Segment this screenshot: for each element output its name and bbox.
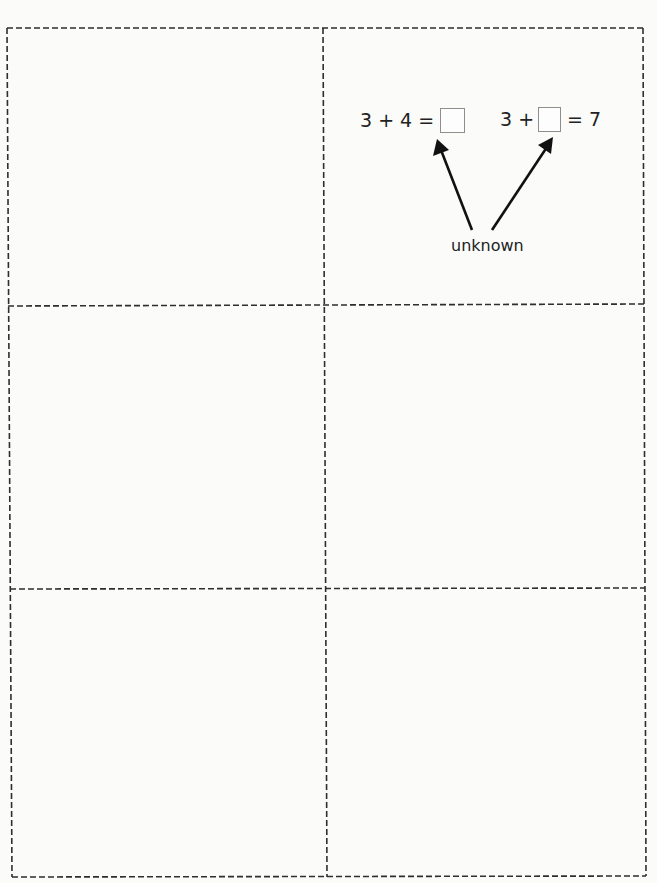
border-bottom [12,876,646,877]
cell-r2-c1 [9,307,323,588]
cell-r3-c2 [327,590,645,876]
unknown-label: unknown [451,236,524,255]
worksheet-page: 3 + 4 = 3 + = 7 unknown [0,0,657,883]
equation-2: 3 + = 7 [500,106,601,132]
equation-2-answer-box[interactable] [538,107,561,132]
cell-r1-c2 [324,29,642,305]
cell-r3-c1 [11,590,325,876]
equation-2-right: = 7 [567,106,601,132]
cell-r2-c2 [326,307,644,588]
equation-1-left: 3 + 4 = [360,107,434,133]
divider-horizontal-2 [10,588,645,589]
equation-2-left: 3 + [500,106,534,132]
cell-r1-c1 [8,29,322,305]
equation-1: 3 + 4 = [360,107,465,133]
equation-1-answer-box[interactable] [440,108,465,133]
